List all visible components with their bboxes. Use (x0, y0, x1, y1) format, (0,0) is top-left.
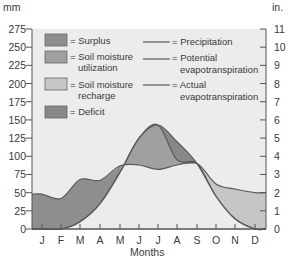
y-left-tick-label: 0 (20, 223, 26, 235)
legend-swatch-utilization (45, 51, 67, 63)
x-tick-label: A (96, 234, 103, 246)
legend-aet-1: = Actual (172, 79, 206, 90)
y-left-tick-label: 25 (14, 205, 26, 217)
legend-swatch-surplus (45, 34, 67, 46)
y-right-tick-label: 9 (274, 59, 280, 71)
legend-utilization-1: = Soil moisture (70, 51, 133, 62)
y-left-unit: mm (3, 1, 21, 13)
x-tick-label: J (136, 234, 141, 246)
y-right-tick-label: 2 (274, 187, 280, 199)
x-tick-label: A (173, 234, 180, 246)
legend-pet-1: = Potential (172, 52, 217, 63)
y-right-tick-label: 7 (274, 96, 280, 108)
x-axis-title: Months (130, 246, 164, 258)
y-right-tick-label: 11 (274, 23, 285, 35)
x-tick-label: F (58, 234, 64, 246)
water-budget-chart: 0255075100125150175200225250275 01234567… (0, 0, 291, 266)
legend-aet-2: evapotranspiration (180, 91, 258, 102)
legend-utilization-2: utilization (78, 62, 118, 73)
legend-swatch-deficit (45, 106, 67, 118)
legend-deficit: = Deficit (70, 106, 105, 117)
y-right-tick-label: 3 (274, 168, 280, 180)
y-left-tick-label: 275 (8, 23, 26, 35)
x-tick-label: S (193, 234, 200, 246)
left-axis-ticks: 0255075100125150175200225250275 (8, 23, 32, 235)
legend-pet-2: evapotranspiration (180, 64, 258, 75)
y-right-tick-label: 10 (274, 41, 286, 53)
y-right-tick-label: 5 (274, 132, 280, 144)
y-left-tick-label: 100 (8, 150, 26, 162)
y-left-tick-label: 125 (8, 132, 26, 144)
x-tick-label: J (155, 234, 160, 246)
y-right-tick-label: 1 (274, 205, 280, 217)
y-left-tick-label: 250 (8, 41, 26, 53)
y-right-tick-label: 8 (274, 78, 280, 90)
y-left-tick-label: 150 (8, 114, 26, 126)
y-right-tick-label: 4 (274, 150, 280, 162)
legend-recharge-2: recharge (78, 90, 116, 101)
x-tick-label: M (76, 234, 85, 246)
y-left-tick-label: 75 (14, 168, 26, 180)
x-tick-label: J (39, 234, 44, 246)
x-tick-label: O (212, 234, 220, 246)
legend-precipitation: = Precipitation (172, 36, 232, 47)
x-tick-label: M (116, 234, 125, 246)
x-tick-label: N (231, 234, 239, 246)
y-left-tick-label: 225 (8, 59, 26, 71)
y-left-tick-label: 50 (14, 187, 26, 199)
legend-swatch-recharge (45, 78, 67, 90)
y-right-tick-label: 0 (274, 223, 280, 235)
y-right-unit: in. (272, 1, 283, 13)
y-right-tick-label: 6 (274, 114, 280, 126)
legend-recharge-1: = Soil moisture (70, 79, 133, 90)
legend-surplus: = Surplus (70, 35, 111, 46)
y-left-tick-label: 175 (8, 96, 26, 108)
x-tick-label: D (251, 234, 259, 246)
y-left-tick-label: 200 (8, 78, 26, 90)
